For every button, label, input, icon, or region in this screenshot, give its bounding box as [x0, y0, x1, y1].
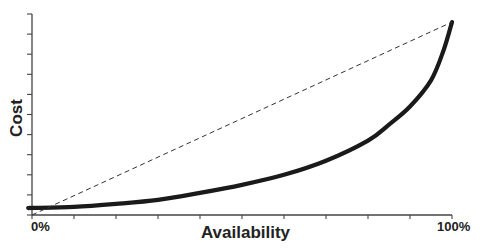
- cost-curve: [28, 22, 452, 208]
- x-axis-title: Availability: [0, 223, 483, 243]
- axis-ticks: [27, 14, 452, 219]
- series-group: [28, 22, 452, 215]
- chart-canvas: [0, 0, 483, 252]
- y-axis-title: Cost: [7, 99, 27, 137]
